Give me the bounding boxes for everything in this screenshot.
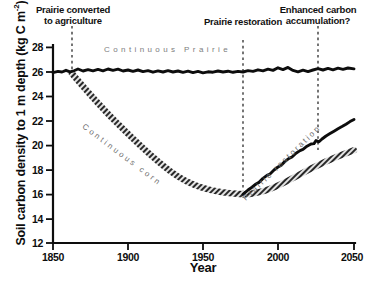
annotation-enhanced-carbon: Enhanced carbon accumulation?: [272, 4, 364, 26]
chart-plot-area: [0, 0, 372, 286]
series-continuous-prairie: [53, 67, 354, 72]
x-axis-title: Year: [150, 260, 256, 275]
y-axis-title-exponent: -2: [12, 4, 21, 11]
xtick-label-2050: 2050: [331, 251, 372, 263]
series-label-continuous-prairie: Continuous Prairie: [104, 45, 231, 54]
xtick-label-2000: 2000: [257, 251, 299, 263]
annotation-prairie-converted: Prairie converted to agriculture: [30, 4, 116, 26]
xtick-label-1850: 1850: [32, 251, 74, 263]
y-axis-title-text: Soil carbon density to 1 m depth (kg C m: [14, 11, 28, 245]
soil-carbon-chart-figure: Prairie converted to agriculture Prairie…: [0, 0, 372, 286]
y-axis-title: Soil carbon density to 1 m depth (kg C m…: [12, 14, 27, 246]
y-axis-title-close: ): [14, 1, 28, 5]
xtick-label-1900: 1900: [107, 251, 149, 263]
